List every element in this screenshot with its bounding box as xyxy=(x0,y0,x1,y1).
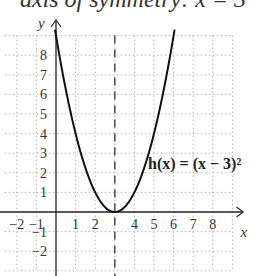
x-axis-label: x xyxy=(239,224,247,240)
y-axis-label: y xyxy=(36,15,45,31)
y-tick-label: 8 xyxy=(40,48,47,63)
y-tick-label: 1 xyxy=(40,185,47,200)
parabola-graph: xy−2−1124567887654321−1−2h(x) = (x − 3)² xyxy=(0,0,266,276)
x-tick-label: 6 xyxy=(170,217,177,232)
x-tick-label: 8 xyxy=(209,217,216,232)
y-tick-label: 4 xyxy=(40,127,47,142)
x-tick-label: 7 xyxy=(190,217,197,232)
x-tick-label: 4 xyxy=(131,217,138,232)
x-tick-label: 5 xyxy=(151,217,158,232)
x-tick-label: 2 xyxy=(92,217,99,232)
y-tick-label: −2 xyxy=(32,244,47,259)
x-tick-label: −2 xyxy=(9,217,24,232)
y-tick-label: 6 xyxy=(40,87,47,102)
y-tick-label: −1 xyxy=(32,225,47,240)
y-tick-label: 2 xyxy=(40,166,47,181)
y-tick-label: 3 xyxy=(40,146,47,161)
y-tick-label: 7 xyxy=(40,68,47,83)
y-tick-label: 5 xyxy=(40,107,47,122)
function-label: h(x) = (x − 3)² xyxy=(148,155,241,173)
x-tick-label: 1 xyxy=(72,217,79,232)
